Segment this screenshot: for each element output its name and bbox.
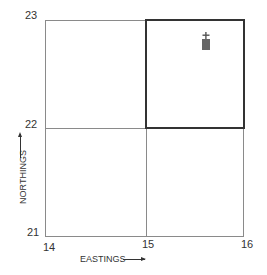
gridline-easting-14 xyxy=(45,20,46,237)
arrow-up-icon xyxy=(20,134,21,158)
x-axis-title: EASTINGS xyxy=(80,254,126,264)
gridline-northing-21 xyxy=(45,236,244,237)
y-tick-label: 23 xyxy=(25,9,37,21)
church-icon xyxy=(200,32,212,50)
y-tick-label: 22 xyxy=(25,118,37,130)
x-tick-label: 14 xyxy=(43,241,55,253)
y-tick-label: 21 xyxy=(27,226,39,238)
x-tick-label: 15 xyxy=(142,238,154,250)
highlighted-grid-square xyxy=(145,19,245,129)
arrow-right-icon xyxy=(123,259,145,260)
x-tick-label: 16 xyxy=(241,238,253,250)
